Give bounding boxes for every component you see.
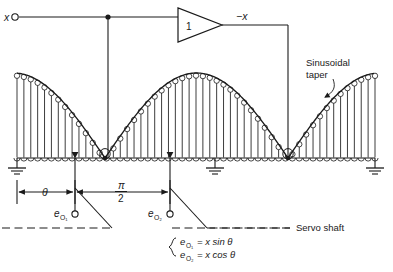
schematic-svg: x 1 −x Sinusoidal taper θ π 2 e O₁ e O₂ … <box>0 0 393 272</box>
quarter-period-denominator: 2 <box>118 193 124 204</box>
taper-label-line1: Sinusoidal <box>306 57 350 68</box>
amplifier-gain-label: 1 <box>186 21 192 32</box>
input-label: x <box>3 11 10 23</box>
quarter-period-numerator: π <box>118 180 125 191</box>
output-terminal-2-icon[interactable] <box>167 211 173 217</box>
equation-2-rhs: = x cos θ <box>197 249 236 260</box>
output-1-label: e O₁ <box>54 208 68 221</box>
equation-1: e O₁ = x sin θ <box>180 236 233 249</box>
taper-leader-arrow-icon <box>324 93 330 98</box>
amplifier-output-label: −x <box>236 10 248 22</box>
equation-1-rhs: = x sin θ <box>197 236 233 247</box>
quarter-period-label: π 2 <box>115 180 127 204</box>
angle-label: θ <box>42 186 48 198</box>
ground-symbol-left <box>8 158 26 174</box>
input-terminal-icon[interactable] <box>12 14 18 20</box>
equation-2: e O₂ = x cos θ <box>180 249 236 262</box>
output-2-label: e O₂ <box>148 208 162 221</box>
equation-brace-icon <box>169 238 176 256</box>
potentiometer-winding <box>14 73 378 161</box>
taper-label-line2: taper <box>306 69 328 80</box>
output-2-subscript: O₂ <box>154 214 162 221</box>
servo-shaft-label: Servo shaft <box>296 222 344 233</box>
servo-shaft-arms <box>75 188 290 228</box>
figure-canvas: x 1 −x Sinusoidal taper θ π 2 e O₁ e O₂ … <box>0 0 393 272</box>
equation-2-subscript: O₂ <box>186 255 194 262</box>
output-terminal-1-icon[interactable] <box>72 211 78 217</box>
equation-1-subscript: O₁ <box>186 242 194 249</box>
svg-text:e: e <box>180 236 185 247</box>
output-1-subscript: O₁ <box>60 214 68 221</box>
ground-symbol-right <box>366 158 384 174</box>
svg-text:e: e <box>180 249 185 260</box>
